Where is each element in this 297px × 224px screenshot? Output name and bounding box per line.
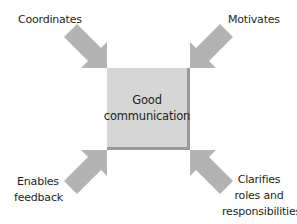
- label-line: Clarifies: [222, 172, 296, 188]
- label-line: Coordinates: [18, 12, 82, 28]
- label-line: Motivates: [228, 12, 280, 28]
- label-line: feedback: [14, 190, 62, 206]
- label-coordinates: Coordinates: [18, 12, 82, 28]
- center-label-line-2: communication: [104, 108, 190, 124]
- label-enables-feedback: Enables feedback: [14, 174, 62, 206]
- arrow-bottom-left-icon: [64, 150, 107, 194]
- arrow-top-left-icon: [64, 24, 107, 68]
- label-clarifies-roles: Clarifies roles and responsibilities: [222, 172, 296, 220]
- center-box-good-communication: Good communication: [107, 68, 190, 150]
- arrow-top-right-icon: [190, 24, 233, 68]
- label-line: Enables: [14, 174, 62, 190]
- label-motivates: Motivates: [228, 12, 280, 28]
- label-line: roles and: [222, 188, 296, 204]
- diagram-canvas: Good communication Coordinates Motivates…: [0, 0, 297, 224]
- label-line: responsibilities: [222, 204, 296, 220]
- center-label-line-1: Good: [132, 92, 161, 108]
